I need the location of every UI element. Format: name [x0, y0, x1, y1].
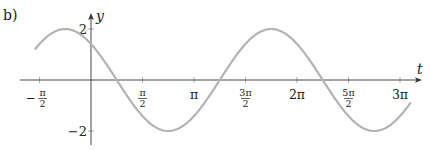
- part-label: b): [3, 7, 17, 23]
- svg-text:−: −: [25, 91, 35, 105]
- svg-text:3π: 3π: [239, 87, 251, 98]
- svg-text:2: 2: [39, 98, 45, 109]
- svg-text:π: π: [190, 87, 198, 102]
- x-tick-label: 3π: [392, 87, 408, 102]
- x-tick-label: π2−: [25, 87, 47, 109]
- svg-text:3π: 3π: [392, 87, 408, 102]
- x-tick-labels: π2−π2π3π22π5π23π: [25, 87, 408, 109]
- svg-text:π: π: [39, 87, 45, 98]
- y-tick-labels: 2−2: [68, 22, 87, 139]
- y-tick-label: −2: [68, 124, 87, 139]
- t-axis-label: t: [417, 61, 423, 77]
- x-tick-label: 3π2: [239, 87, 251, 109]
- sinusoid-plot: b) t y π2−π2π3π22π5π23π 2−2: [0, 0, 431, 150]
- x-tick-label: 2π: [289, 87, 305, 102]
- x-tick-label: 5π2: [342, 87, 354, 109]
- x-tick-label: π2: [138, 87, 147, 109]
- y-axis-label: y: [95, 8, 105, 24]
- svg-text:2: 2: [345, 98, 351, 109]
- svg-text:π: π: [139, 87, 145, 98]
- svg-text:5π: 5π: [342, 87, 354, 98]
- svg-text:2: 2: [242, 98, 248, 109]
- svg-text:2: 2: [139, 98, 145, 109]
- svg-text:2π: 2π: [289, 87, 305, 102]
- x-tick-label: π: [190, 87, 198, 102]
